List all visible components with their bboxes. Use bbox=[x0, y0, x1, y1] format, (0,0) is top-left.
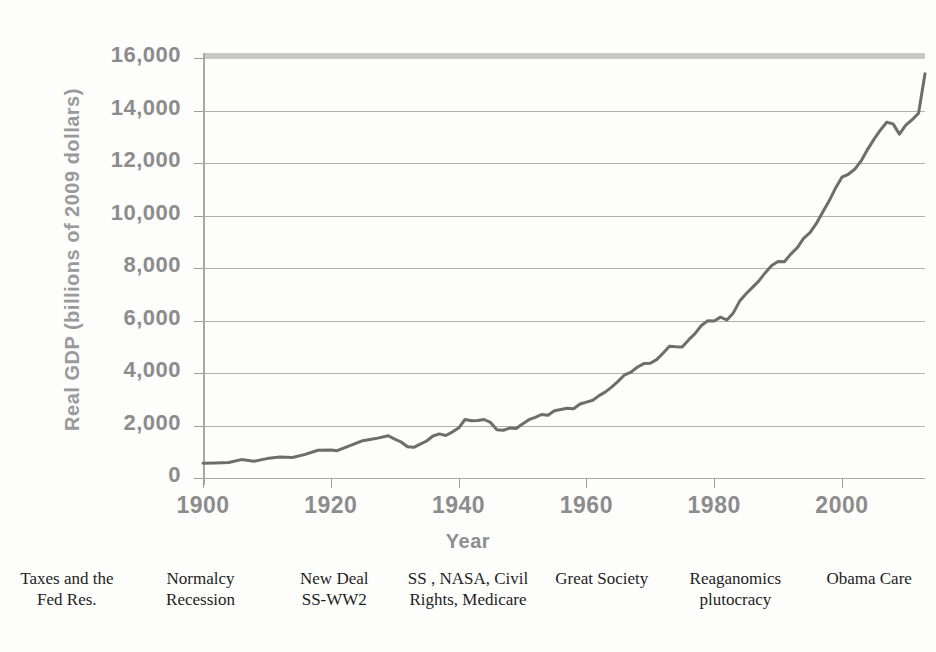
x-axis-title: Year bbox=[0, 530, 936, 553]
annotation-row: Taxes and theFed Res.NormalcyRecessionNe… bbox=[0, 568, 936, 628]
annotation-line: Great Society bbox=[535, 568, 669, 589]
x-tick-1940 bbox=[459, 478, 460, 488]
annotation-line: New Deal bbox=[267, 568, 401, 589]
x-tick-label: 1900 bbox=[158, 492, 248, 519]
x-tick-2000 bbox=[842, 478, 843, 488]
x-tick-label: 1980 bbox=[669, 492, 759, 519]
annotation-label: NormalcyRecession bbox=[134, 568, 268, 610]
y-tick-6000 bbox=[194, 321, 203, 322]
y-tick-16000 bbox=[194, 58, 203, 59]
annotation-line: Normalcy bbox=[134, 568, 268, 589]
y-tick-label: 16,000 bbox=[0, 42, 181, 68]
annotation-label: SS , NASA, CivilRights, Medicare bbox=[401, 568, 535, 610]
x-tick-1960 bbox=[586, 478, 587, 488]
chart-canvas: Real GDP (billions of 2009 dollars) Year… bbox=[0, 0, 936, 652]
x-tick-label: 1940 bbox=[414, 492, 504, 519]
y-tick-label: 6,000 bbox=[0, 305, 181, 331]
y-tick-12000 bbox=[194, 163, 203, 164]
x-tick-1920 bbox=[331, 478, 332, 488]
annotation-line: Taxes and the bbox=[0, 568, 134, 589]
y-tick-label: 12,000 bbox=[0, 147, 181, 173]
annotation-line: SS , NASA, Civil bbox=[401, 568, 535, 589]
annotation-line: Obama Care bbox=[802, 568, 936, 589]
annotation-label: Obama Care bbox=[802, 568, 936, 589]
annotation-label: Taxes and theFed Res. bbox=[0, 568, 134, 610]
x-axis-line bbox=[203, 478, 925, 479]
annotation-line: Reaganomics bbox=[669, 568, 803, 589]
x-tick-1980 bbox=[714, 478, 715, 488]
x-tick-1900 bbox=[203, 478, 204, 488]
annotation-line: Rights, Medicare bbox=[401, 589, 535, 610]
y-tick-14000 bbox=[194, 111, 203, 112]
y-tick-0 bbox=[194, 478, 203, 479]
y-tick-label: 0 bbox=[0, 462, 181, 488]
y-tick-8000 bbox=[194, 268, 203, 269]
y-tick-label: 10,000 bbox=[0, 200, 181, 226]
gdp-line-series bbox=[203, 58, 925, 478]
x-tick-label: 1920 bbox=[286, 492, 376, 519]
annotation-label: New DealSS-WW2 bbox=[267, 568, 401, 610]
y-tick-4000 bbox=[194, 373, 203, 374]
x-tick-label: 2000 bbox=[797, 492, 887, 519]
annotation-label: Reaganomicsplutocracy bbox=[669, 568, 803, 610]
annotation-line: SS-WW2 bbox=[267, 589, 401, 610]
x-tick-label: 1960 bbox=[541, 492, 631, 519]
y-tick-2000 bbox=[194, 426, 203, 427]
annotation-label: Great Society bbox=[535, 568, 669, 589]
y-tick-label: 14,000 bbox=[0, 95, 181, 121]
annotation-line: Recession bbox=[134, 589, 268, 610]
y-tick-label: 2,000 bbox=[0, 410, 181, 436]
y-tick-label: 8,000 bbox=[0, 252, 181, 278]
annotation-line: plutocracy bbox=[669, 589, 803, 610]
y-tick-label: 4,000 bbox=[0, 357, 181, 383]
y-tick-10000 bbox=[194, 216, 203, 217]
annotation-line: Fed Res. bbox=[0, 589, 134, 610]
